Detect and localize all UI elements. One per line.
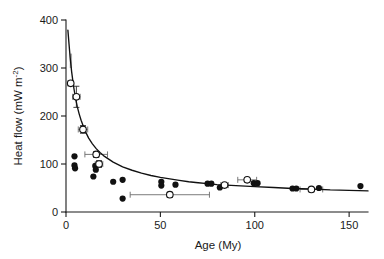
data-point-filled xyxy=(316,185,322,191)
data-point-filled xyxy=(110,179,116,185)
chart-canvas: 0100200300400 050100150 Age (My) Heat fl… xyxy=(0,0,384,259)
data-point-open xyxy=(93,151,100,158)
y-axis-ticks: 0100200300400 xyxy=(40,14,66,218)
x-axis-title: Age (My) xyxy=(195,239,242,251)
data-point-filled xyxy=(254,180,260,186)
y-axis-title: Heat flow (mW m-2) xyxy=(11,66,24,165)
data-point-filled xyxy=(72,165,78,171)
data-point-filled xyxy=(158,183,164,189)
chart-axes: 0100200300400 050100150 xyxy=(40,14,368,231)
y-tick-label: 300 xyxy=(40,62,58,74)
data-point-filled xyxy=(172,182,178,188)
data-point-open xyxy=(67,80,74,87)
y-tick-label: 400 xyxy=(40,14,58,26)
data-point-open xyxy=(80,126,87,133)
data-point-open xyxy=(73,94,80,101)
data-point-open xyxy=(221,182,228,189)
data-point-open xyxy=(167,191,174,198)
x-tick-label: 150 xyxy=(340,219,358,231)
data-point-filled xyxy=(357,183,363,189)
data-point-filled xyxy=(293,185,299,191)
x-tick-label: 0 xyxy=(63,219,69,231)
data-point-filled xyxy=(71,153,77,159)
y-axis-title-group: Heat flow (mW m-2) xyxy=(11,66,24,165)
x-tick-label: 100 xyxy=(246,219,264,231)
open-circle-series xyxy=(67,80,314,198)
data-point-filled xyxy=(120,195,126,201)
x-tick-label: 50 xyxy=(154,219,166,231)
y-tick-label: 200 xyxy=(40,110,58,122)
y-tick-label: 100 xyxy=(40,158,58,170)
data-point-open xyxy=(96,161,103,168)
error-bars xyxy=(68,80,323,197)
data-point-filled xyxy=(120,177,126,183)
data-point-filled xyxy=(208,181,214,187)
data-point-open xyxy=(308,186,315,193)
filled-circle-series xyxy=(71,153,363,201)
data-point-open xyxy=(244,177,251,184)
y-tick-label: 0 xyxy=(52,206,58,218)
heat-flow-vs-age-figure: 0100200300400 050100150 Age (My) Heat fl… xyxy=(0,0,384,259)
fit-curve xyxy=(68,30,368,191)
x-axis-ticks: 050100150 xyxy=(63,212,358,231)
data-point-filled xyxy=(90,173,96,179)
